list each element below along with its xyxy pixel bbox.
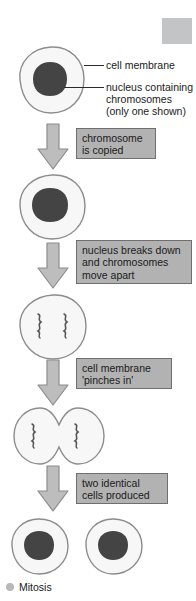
- stage-4-pinched-cell: [10, 405, 108, 467]
- caption-chromosome-copied-line2: is copied: [82, 144, 151, 156]
- arrow-down-icon: [36, 243, 70, 289]
- pinched-cell-shape: [10, 405, 108, 467]
- nucleus-shape: [98, 531, 128, 560]
- caption-nucleus-breaks-down-line1: nucleus breaks down: [82, 244, 187, 256]
- caption-two-cells-line2: cells produced: [82, 489, 163, 501]
- cell-shape: [14, 44, 88, 116]
- caption-two-cells: two identical cells produced: [76, 473, 168, 504]
- arrow-down-icon: [36, 124, 70, 170]
- caption-membrane-pinches: cell membrane 'pinches in': [76, 358, 172, 389]
- arrow-down-1: [36, 124, 70, 170]
- arrow-down-icon: [36, 360, 70, 406]
- arrow-down-2: [36, 243, 70, 289]
- cell-shape: [14, 292, 92, 362]
- nucleus-shape: [33, 62, 67, 96]
- caption-nucleus-breaks-down: nucleus breaks down and chromosomes move…: [76, 240, 192, 284]
- arrow-down-3: [36, 360, 70, 406]
- nucleus-shape: [24, 531, 54, 560]
- diagram-title-text: Mitosis: [19, 581, 52, 593]
- arrow-down-icon: [36, 466, 70, 512]
- diagram-title: Mitosis: [6, 581, 52, 593]
- caption-nucleus-breaks-down-line2: and chromosomes: [82, 256, 187, 268]
- stage-5-daughter-cells: [8, 516, 148, 578]
- caption-membrane-pinches-line1: cell membrane: [82, 362, 167, 374]
- daughter-cell-left: [12, 519, 68, 574]
- caption-chromosome-copied: chromosome is copied: [76, 128, 156, 159]
- daughter-cell-right: [86, 519, 142, 574]
- caption-chromosome-copied-line1: chromosome: [82, 132, 151, 144]
- stage-3-chromosomes-apart: [14, 292, 92, 362]
- daughter-cells-shape: [8, 516, 148, 578]
- label-cell-membrane: cell membrane: [106, 59, 175, 71]
- arrow-down-4: [36, 466, 70, 512]
- nucleus-shape: [32, 188, 68, 222]
- stage-1-cell-with-nucleus: [14, 44, 88, 116]
- caption-two-cells-line1: two identical: [82, 477, 163, 489]
- caption-nucleus-breaks-down-line3: move apart: [82, 269, 187, 281]
- label-nucleus-line1: nucleus containing: [106, 81, 193, 93]
- label-nucleus-line3: (only one shown): [106, 105, 193, 117]
- label-cell-membrane-text: cell membrane: [106, 59, 175, 71]
- placeholder-block: [162, 18, 192, 44]
- leader-line-nucleus: [64, 87, 104, 88]
- caption-membrane-pinches-line2: 'pinches in': [82, 374, 167, 386]
- cell-shape: [14, 172, 90, 242]
- bullet-icon: [6, 583, 14, 591]
- stage-2-cell-copied: [14, 172, 90, 242]
- leader-line-cell-membrane: [84, 65, 104, 66]
- label-nucleus: nucleus containing chromosomes (only one…: [106, 81, 193, 118]
- label-nucleus-line2: chromosomes: [106, 93, 193, 105]
